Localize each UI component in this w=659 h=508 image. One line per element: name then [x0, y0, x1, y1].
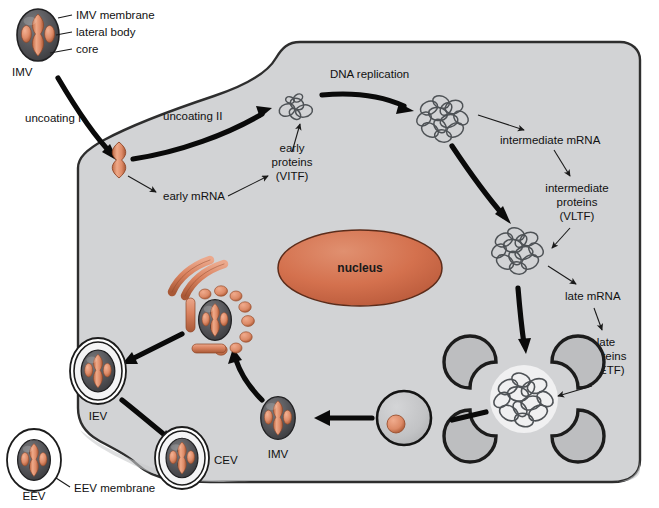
- wrapping-virion: [199, 300, 232, 341]
- label-imv-top: IMV: [12, 66, 33, 78]
- label-late-mrna: late mRNA: [565, 290, 621, 302]
- iev-virion: [70, 338, 126, 404]
- label-core: core: [76, 43, 98, 55]
- nucleus-label: nucleus: [337, 261, 383, 275]
- golgi-bar-bottom: [192, 344, 226, 353]
- leader-imv-membrane: [58, 15, 72, 18]
- label-eev-membrane: EEV membrane: [74, 482, 155, 494]
- label-intermediate-proteins-1: intermediate: [545, 182, 608, 194]
- immature-virion-nucleoid: [387, 415, 405, 433]
- eev-virion: [7, 429, 61, 491]
- label-uncoating-1: uncoating I: [25, 112, 81, 124]
- label-dna-replication: DNA replication: [330, 68, 409, 80]
- poxvirus-replication-diagram: nucleus IMV membrane lateral body core I…: [0, 0, 659, 508]
- immature-virion: [377, 391, 431, 445]
- label-imv-bottom: IMV: [268, 448, 289, 460]
- label-eev: EEV: [22, 490, 45, 502]
- imv-bottom-virion: [261, 397, 295, 440]
- cev-virion: [155, 427, 209, 489]
- leader-eev-membrane: [56, 478, 70, 487]
- label-uncoating-2: uncoating II: [163, 110, 222, 122]
- label-early-proteins-3: (VITF): [276, 170, 309, 182]
- label-iev: IEV: [89, 410, 108, 422]
- label-lateral-body: lateral body: [76, 26, 136, 38]
- label-imv-membrane: IMV membrane: [76, 9, 155, 21]
- label-cev: CEV: [214, 454, 238, 466]
- label-early-mrna: early mRNA: [163, 190, 225, 202]
- label-early-proteins-2: proteins: [272, 156, 313, 168]
- imv-top-virion: [17, 9, 59, 61]
- label-early-proteins-1: early: [280, 142, 305, 154]
- label-intermediate-mrna: intermediate mRNA: [500, 134, 601, 146]
- label-intermediate-proteins-2: proteins: [557, 196, 598, 208]
- golgi-bar-left: [186, 298, 195, 332]
- label-intermediate-proteins-3: (VLTF): [560, 210, 595, 222]
